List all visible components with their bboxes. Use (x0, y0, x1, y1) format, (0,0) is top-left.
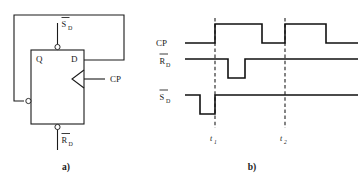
d-input-label: D (71, 54, 78, 64)
signal-label-cp: CP (156, 38, 167, 48)
qbar-bubble-icon (26, 98, 31, 103)
signal-label-rd-sub: D (166, 62, 171, 68)
signal-label-sd-sub: D (166, 98, 171, 104)
panel-b-caption: b) (248, 162, 256, 173)
signal-label-sd-base: S (160, 92, 165, 102)
set-pin-label-sub: D (68, 25, 73, 31)
reset-pin-label-sub: D (69, 141, 74, 147)
timing-panel: CP R D S D t 1 t (156, 18, 358, 173)
panel-a-caption: a) (62, 162, 70, 173)
t1-sub: 1 (214, 139, 217, 145)
q-output-label: Q (36, 54, 43, 64)
figure-root: Q D CP S D R D (0, 0, 363, 188)
circuit-panel: Q D CP S D R D (14, 15, 124, 173)
time-marker-t2-label: t 2 (280, 134, 287, 145)
t2-base: t (280, 134, 283, 143)
waveform-rd (185, 59, 358, 78)
signal-label-rd-base: R (160, 56, 166, 66)
reset-bubble-icon (55, 124, 60, 129)
signal-label-sd-group: S D (160, 90, 172, 104)
signal-label-rd-group: R D (160, 54, 172, 68)
clock-triangle-icon (72, 70, 84, 88)
waveform-sd (185, 95, 358, 114)
time-marker-t1-label: t 1 (210, 134, 217, 145)
set-bubble-icon (55, 44, 60, 49)
t2-sub: 2 (284, 139, 287, 145)
clock-pin-label: CP (110, 74, 121, 84)
figure-canvas: Q D CP S D R D (0, 0, 363, 188)
t1-base: t (210, 134, 213, 143)
set-pin-label-base: S (62, 19, 67, 29)
reset-pin-label-base: R (62, 135, 68, 145)
set-pin-label-group: S D (62, 18, 74, 31)
reset-pin-label-group: R D (62, 134, 74, 147)
waveform-cp (185, 24, 358, 43)
